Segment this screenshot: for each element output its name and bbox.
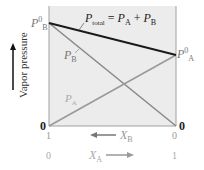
- xa-tick-left: 0: [46, 150, 51, 161]
- xb-label: XB: [119, 128, 133, 144]
- xb-tick-left: 1: [46, 130, 51, 141]
- raoults-law-chart: P0B P0A Ptotal = PA + PB PB PA Vapor pre…: [0, 0, 204, 170]
- left-arrow-icon: [90, 132, 97, 138]
- zero-right-label: 0: [179, 119, 185, 133]
- p0b-label: P0B: [30, 15, 48, 32]
- xa-tick-right: 1: [172, 150, 177, 161]
- up-arrow-icon: [10, 43, 16, 50]
- xb-tick-right: 0: [172, 130, 177, 141]
- p0a-label: P0A: [176, 46, 194, 63]
- right-arrow-icon: [127, 152, 134, 158]
- xa-label: XA: [88, 148, 102, 164]
- y-axis-label: Vapor pressure: [17, 32, 29, 98]
